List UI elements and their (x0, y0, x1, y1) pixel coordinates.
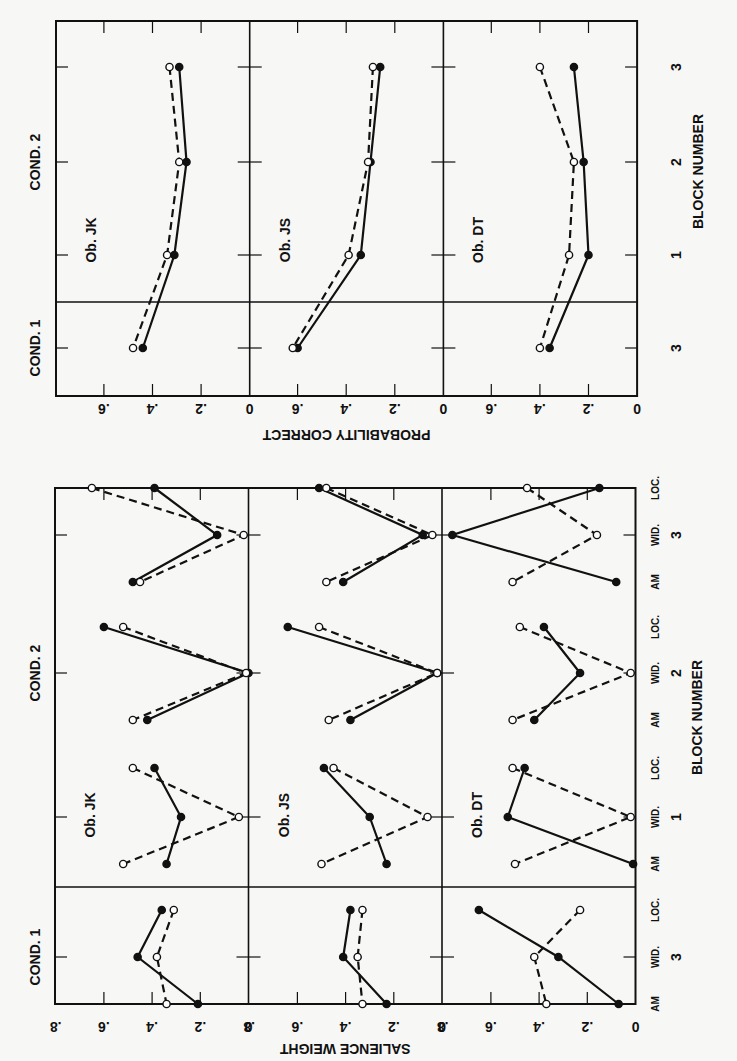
filled-series-line (343, 910, 386, 1004)
value-tick-label: .2 (582, 401, 594, 417)
filled-circle-marker-icon (171, 251, 178, 258)
filled-series-line (143, 67, 187, 348)
open-circle-marker-icon (354, 953, 361, 960)
value-tick-label: 0 (439, 401, 447, 417)
value-tick-label: .4 (146, 1019, 158, 1035)
filled-circle-marker-icon (504, 813, 511, 820)
open-circle-marker-icon (536, 63, 543, 70)
filled-series-line (104, 627, 249, 720)
filled-circle-marker-icon (194, 1000, 201, 1007)
filled-circle-marker-icon (158, 906, 165, 913)
value-tick-label: .8 (243, 1019, 255, 1035)
open-circle-marker-icon (543, 1000, 550, 1007)
observer-label: Ob. JS (277, 218, 293, 262)
filled-series-line (452, 488, 616, 582)
open-circle-marker-icon (509, 764, 516, 771)
open-circle-marker-icon (627, 669, 634, 676)
filled-circle-marker-icon (570, 63, 577, 70)
value-axis-title: PROBABILITY CORRECT (262, 427, 430, 443)
filled-circle-marker-icon (615, 1000, 622, 1007)
filled-circle-marker-icon (151, 764, 158, 771)
open-circle-marker-icon (163, 251, 170, 258)
value-tick-label: .4 (533, 1019, 545, 1035)
dimension-label: LOC. (650, 476, 661, 500)
dimension-label: WID. (650, 806, 661, 828)
block-number-label: 3 (668, 63, 684, 71)
value-tick-label: .6 (98, 401, 110, 417)
dimension-label: LOC. (650, 756, 661, 780)
value-tick-label: .6 (485, 401, 497, 417)
open-circle-marker-icon (153, 953, 160, 960)
open-circle-marker-icon (516, 623, 523, 630)
dimension-label: AM (650, 856, 661, 872)
filled-circle-marker-icon (546, 344, 553, 351)
dimension-label: AM (650, 712, 661, 728)
plot-frame (55, 488, 636, 1004)
dimension-label: WID. (650, 662, 661, 684)
open-circle-marker-icon (523, 484, 530, 491)
value-tick-label: .2 (581, 1019, 593, 1035)
filled-series-line (508, 768, 633, 864)
condition-label: COND. 1 (27, 928, 43, 985)
open-circle-marker-icon (88, 484, 95, 491)
open-series-line (513, 627, 631, 720)
open-series-line (513, 768, 631, 864)
value-tick-label: .2 (389, 401, 401, 417)
block-number-label: 1 (668, 813, 684, 821)
open-circle-marker-icon (315, 623, 322, 630)
observer-label: Ob. JK (83, 217, 99, 262)
filled-circle-marker-icon (284, 623, 291, 630)
filled-series-line (319, 488, 423, 582)
value-tick-label: .8 (50, 1019, 62, 1035)
filled-circle-marker-icon (340, 953, 347, 960)
open-circle-marker-icon (593, 531, 600, 538)
block-number-label: 3 (668, 953, 684, 961)
filled-circle-marker-icon (129, 578, 136, 585)
filled-circle-marker-icon (475, 906, 482, 913)
value-tick-label: .6 (291, 1019, 303, 1035)
filled-series-line (133, 488, 217, 582)
open-circle-marker-icon (136, 578, 143, 585)
filled-circle-marker-icon (377, 63, 384, 70)
observer-label: Ob. JK (82, 792, 98, 837)
open-circle-marker-icon (424, 813, 431, 820)
filled-series-line (479, 910, 619, 1004)
open-circle-marker-icon (318, 860, 325, 867)
observer-label: Ob. DT (470, 217, 486, 263)
open-circle-marker-icon (509, 716, 516, 723)
filled-circle-marker-icon (347, 716, 354, 723)
filled-circle-marker-icon (214, 531, 221, 538)
filled-circle-marker-icon (163, 860, 170, 867)
value-tick-label: .6 (98, 1019, 110, 1035)
filled-series-line (534, 627, 580, 720)
open-circle-marker-icon (129, 716, 136, 723)
filled-circle-marker-icon (383, 1000, 390, 1007)
filled-circle-marker-icon (521, 764, 528, 771)
block-axis-title: BLOCK NUMBER (690, 114, 706, 229)
open-circle-marker-icon (176, 158, 183, 165)
observer-label: Ob. JS (276, 793, 292, 837)
value-tick-label: .4 (534, 401, 546, 417)
open-circle-marker-icon (163, 1000, 170, 1007)
condition-label: COND. 2 (27, 644, 43, 701)
open-circle-marker-icon (359, 1000, 366, 1007)
filled-circle-marker-icon (540, 623, 547, 630)
condition-label: COND. 1 (27, 319, 43, 376)
filled-circle-marker-icon (383, 860, 390, 867)
filled-circle-marker-icon (576, 669, 583, 676)
open-circle-marker-icon (323, 578, 330, 585)
filled-circle-marker-icon (315, 484, 322, 491)
open-series-line (540, 67, 574, 348)
filled-circle-marker-icon (340, 578, 347, 585)
value-tick-label: .2 (194, 1019, 206, 1035)
dimension-label: WID. (650, 946, 661, 968)
block-number-label: 1 (668, 251, 684, 259)
block-number-label: 2 (668, 669, 684, 677)
open-circle-marker-icon (345, 251, 352, 258)
dimension-label: AM (650, 996, 661, 1012)
dimension-label: LOC. (650, 615, 661, 639)
open-circle-marker-icon (359, 906, 366, 913)
open-circle-marker-icon (170, 906, 177, 913)
open-circle-marker-icon (240, 531, 247, 538)
filled-circle-marker-icon (613, 578, 620, 585)
